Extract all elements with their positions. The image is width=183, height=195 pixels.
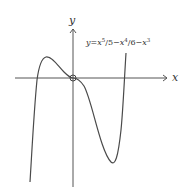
function-graph: x y y=x5/5−x4/6−x3 (0, 0, 183, 195)
y-axis-label: y (68, 14, 76, 27)
x-axis-label: x (172, 71, 179, 84)
function-curve (30, 53, 126, 182)
equation-label: y=x5/5−x4/6−x3 (85, 37, 151, 47)
